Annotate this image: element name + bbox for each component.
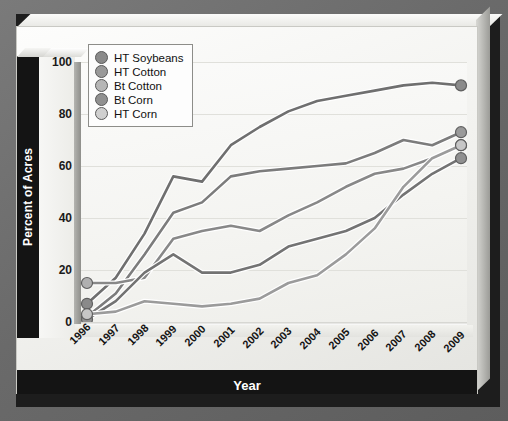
legend-item-ht-corn[interactable]: HT Corn <box>95 107 183 120</box>
legend-swatch-circle-icon <box>95 65 108 78</box>
plot-floor <box>75 325 473 337</box>
y-axis-title: Percent of Acres <box>17 56 39 338</box>
legend[interactable]: HT SoybeansHT CottonBt CottonBt CornHT C… <box>88 44 193 127</box>
y-tick-label: 60 <box>59 159 72 173</box>
y-axis-ticks: 020406080100 <box>40 58 74 336</box>
legend-item-label: Bt Cotton <box>114 80 162 92</box>
chart-screenshot: Percent of Acres 020406080100 HT Soybean… <box>0 0 508 421</box>
series-endpoint-marker <box>456 140 467 151</box>
legend-item-label: Bt Corn <box>114 94 153 106</box>
legend-item-label: HT Corn <box>114 108 157 120</box>
legend-item-ht-cotton[interactable]: HT Cotton <box>95 65 183 78</box>
y-tick-label: 100 <box>52 55 72 69</box>
legend-swatch-circle-icon <box>95 51 108 64</box>
series-line-halo <box>87 145 461 283</box>
legend-item-ht-soybeans[interactable]: HT Soybeans <box>95 51 183 64</box>
legend-item-bt-cotton[interactable]: Bt Cotton <box>95 79 183 92</box>
y-tick-label: 40 <box>59 211 72 225</box>
series-endpoint-marker <box>82 298 93 309</box>
legend-item-bt-corn[interactable]: Bt Corn <box>95 93 183 106</box>
legend-item-label: HT Cotton <box>114 66 166 78</box>
x-axis-title: Year <box>16 378 478 393</box>
legend-swatch-circle-icon <box>95 107 108 120</box>
y-tick-label: 0 <box>65 315 72 329</box>
chart-3d-right-face <box>476 6 490 392</box>
series-endpoint-marker <box>456 153 467 164</box>
y-axis-wall <box>74 62 81 324</box>
series-endpoint-marker <box>456 80 467 91</box>
series-endpoint-marker <box>456 127 467 138</box>
y-tick-label: 20 <box>59 263 72 277</box>
series-endpoint-marker <box>82 278 93 289</box>
legend-swatch-circle-icon <box>95 93 108 106</box>
legend-item-label: HT Soybeans <box>114 52 183 64</box>
legend-swatch-circle-icon <box>95 79 108 92</box>
series-endpoint-marker <box>82 309 93 320</box>
y-tick-label: 80 <box>59 107 72 121</box>
